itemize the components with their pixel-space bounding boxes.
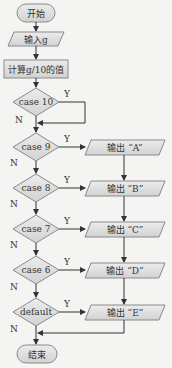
end-label: 结束 — [28, 349, 46, 360]
no-label: N — [10, 324, 18, 334]
decision-default: default — [13, 298, 59, 326]
start-label: 开始 — [27, 8, 45, 19]
decision-case-7: case 7 — [13, 215, 59, 243]
start-terminal: 开始 — [17, 4, 55, 22]
decision-label: case 7 — [22, 224, 51, 234]
output-label: 输出 “B” — [107, 183, 144, 194]
decision-label: case 8 — [22, 183, 51, 193]
yes-label: Y — [63, 134, 71, 144]
input-label: 输入g — [24, 34, 48, 45]
decision-label: case 6 — [22, 265, 51, 275]
no-label: N — [10, 282, 18, 292]
compute-process: 计算g/10的值 — [4, 60, 68, 78]
output-c: 输出 “C” — [85, 222, 165, 237]
no-label: N — [15, 115, 23, 125]
decision-case-10: case 10 — [13, 88, 59, 116]
output-b: 输出 “B” — [85, 181, 165, 196]
end-terminal: 结束 — [17, 345, 57, 363]
decision-label: case 10 — [19, 97, 54, 107]
output-label: 输出 “E” — [107, 307, 144, 318]
decision-case-8: case 8 — [13, 174, 59, 202]
input-parallelogram: 输入g — [8, 32, 64, 46]
no-label: N — [10, 240, 18, 250]
yes-label: Y — [63, 175, 71, 185]
yes-label: Y — [63, 299, 71, 309]
yes-label: Y — [63, 216, 71, 226]
decision-case-9: case 9 — [13, 133, 59, 161]
no-label: N — [10, 199, 18, 209]
yes-label: Y — [63, 257, 71, 267]
compute-label: 计算g/10的值 — [8, 64, 64, 75]
output-label: 输出 “A” — [107, 142, 142, 153]
no-label: N — [10, 158, 18, 168]
output-label: 输出 “D” — [106, 265, 143, 276]
decision-case-6: case 6 — [13, 256, 59, 284]
yes-label: Y — [63, 89, 71, 99]
output-d: 输出 “D” — [85, 263, 165, 278]
output-a: 输出 “A” — [85, 140, 165, 155]
merge-arrow — [38, 320, 124, 333]
output-label: 输出 “C” — [107, 224, 144, 235]
flowchart: 开始 输入g 计算g/10的值 case 10 Y N case 9 Y N 输… — [0, 0, 172, 368]
decision-label: case 9 — [22, 142, 51, 152]
decision-label: default — [20, 307, 52, 317]
output-e: 输出 “E” — [85, 305, 165, 320]
